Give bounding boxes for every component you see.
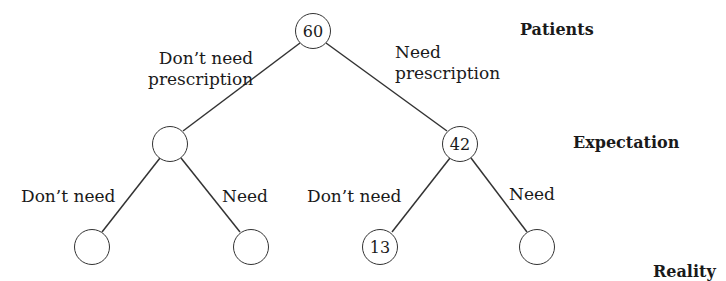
edge-label-midright-left: Don’t need	[307, 186, 401, 207]
node-leaf-rr	[519, 229, 555, 265]
level-label-expectation: Expectation	[573, 133, 679, 152]
node-leaf-ll	[74, 229, 110, 265]
node-value: 13	[370, 238, 390, 257]
node-root: 60	[295, 13, 331, 49]
node-mid-left	[152, 126, 188, 162]
node-leaf-lr	[233, 229, 269, 265]
edge-label-line: prescription	[395, 63, 500, 84]
node-mid-right: 42	[442, 126, 478, 162]
edge-label-root-right: Need prescription	[395, 42, 500, 84]
node-leaf-rl: 13	[362, 229, 398, 265]
edge-label-midright-right: Need	[509, 184, 555, 205]
edge-label-line: prescription	[148, 69, 253, 90]
node-value: 60	[303, 22, 323, 41]
edge-label-midleft-right: Need	[222, 186, 268, 207]
level-label-patients: Patients	[520, 20, 594, 39]
node-value: 42	[450, 135, 470, 154]
level-label-reality: Reality	[653, 262, 716, 281]
edge-label-line: Don’t need	[148, 48, 253, 69]
edge-label-midleft-left: Don’t need	[21, 186, 115, 207]
edge-label-line: Need	[395, 42, 500, 63]
edge-label-root-left: Don’t need prescription	[148, 48, 253, 90]
